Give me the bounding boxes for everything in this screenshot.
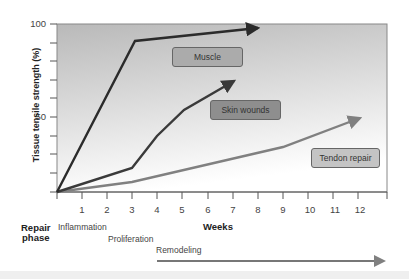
phase-proliferation: Proliferation xyxy=(108,234,153,244)
x-tick-12: 12 xyxy=(355,204,366,215)
x-tick-4: 4 xyxy=(154,204,159,215)
x-tick-10: 10 xyxy=(305,204,316,215)
y-axis-ticks xyxy=(50,24,57,192)
phase-remodeling: Remodeling xyxy=(156,245,201,255)
x-tick-8: 8 xyxy=(255,204,260,215)
x-tick-3: 3 xyxy=(129,204,134,215)
x-tick-2: 2 xyxy=(104,204,109,215)
label-muscle: Muscle xyxy=(172,47,243,67)
x-tick-7: 7 xyxy=(230,204,235,215)
x-tick-6: 6 xyxy=(205,204,210,215)
repair-phase-line2: phase xyxy=(21,233,51,243)
repair-phase-title: Repair phase xyxy=(21,223,51,243)
y-axis-title: Tissue tensile strength (%) xyxy=(31,35,41,175)
x-axis-title: Weeks xyxy=(203,221,233,232)
phase-inflammation: Inflammation xyxy=(58,222,107,232)
label-tendon-repair: Tendon repair xyxy=(311,148,380,168)
x-tick-5: 5 xyxy=(179,204,184,215)
x-axis-ticks xyxy=(57,192,387,199)
x-tick-1: 1 xyxy=(79,204,84,215)
y-tick-100: 100 xyxy=(16,18,46,29)
label-skin-wounds: Skin wounds xyxy=(210,100,281,120)
chart-canvas xyxy=(0,0,409,279)
x-tick-9: 9 xyxy=(280,204,285,215)
x-tick-11: 11 xyxy=(330,204,340,215)
footer-band xyxy=(0,271,409,279)
